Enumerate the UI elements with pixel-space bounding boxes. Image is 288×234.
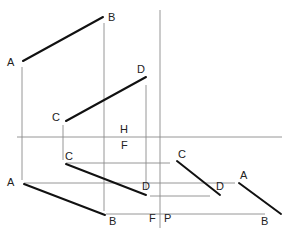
profile-view-edge-ab bbox=[239, 183, 281, 214]
profile-view-edge-cd bbox=[177, 161, 220, 195]
label-plane-h: H bbox=[120, 123, 128, 135]
label-top-a: A bbox=[7, 56, 15, 68]
label-profile-d: D bbox=[216, 180, 224, 192]
label-profile-b: B bbox=[261, 215, 268, 227]
label-plane-f-upper: F bbox=[121, 139, 128, 151]
top-view-edge-cd bbox=[66, 77, 146, 121]
label-front-a: A bbox=[7, 176, 15, 188]
label-front-d: D bbox=[142, 180, 150, 192]
top-view-edge-ab bbox=[23, 17, 103, 61]
projection-diagram: A B C D H F F P A B C D C D A B bbox=[0, 0, 288, 234]
label-top-d: D bbox=[137, 63, 145, 75]
label-profile-c: C bbox=[178, 148, 186, 160]
label-top-c: C bbox=[52, 111, 60, 123]
label-plane-f-lower: F bbox=[149, 212, 156, 224]
label-front-b: B bbox=[109, 215, 116, 227]
label-front-c: C bbox=[65, 150, 73, 162]
label-top-b: B bbox=[108, 11, 115, 23]
front-view-edge-ab bbox=[24, 184, 105, 215]
label-plane-p: P bbox=[164, 212, 171, 224]
label-profile-a: A bbox=[240, 169, 248, 181]
front-view-edge-cd bbox=[66, 164, 146, 195]
